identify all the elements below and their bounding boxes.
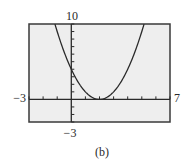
- xmax-label: 7: [174, 91, 180, 105]
- ymin-label: −3: [64, 126, 77, 140]
- ymax-label: 10: [66, 9, 78, 23]
- graphing-calculator-figure: 10 −3 −3 7 (b): [0, 0, 188, 161]
- figure-caption: (b): [95, 145, 109, 159]
- xmin-label: −3: [13, 91, 26, 105]
- viewing-window: [29, 24, 170, 122]
- chart-svg: 10 −3 −3 7 (b): [0, 0, 188, 161]
